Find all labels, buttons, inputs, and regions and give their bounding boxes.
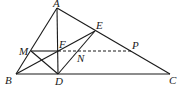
label-n: N [76, 52, 85, 64]
label-c: C [169, 74, 177, 86]
segment-md [31, 51, 58, 74]
segment-ab [16, 8, 57, 74]
label-m: M [18, 45, 29, 57]
label-b: B [5, 74, 12, 86]
label-e: E [95, 19, 103, 31]
label-f: F [58, 38, 66, 50]
label-a: A [52, 0, 60, 9]
geometry-figure: A B C D E F M N P [0, 0, 183, 102]
segment-ad [57, 8, 58, 74]
label-p: P [131, 39, 139, 51]
label-d: D [54, 75, 63, 87]
segment-ac [57, 8, 170, 74]
